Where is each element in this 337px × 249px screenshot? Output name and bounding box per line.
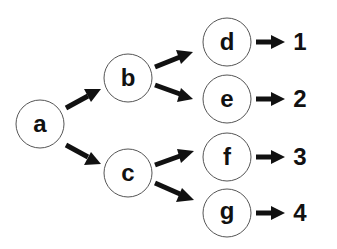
output-value-2: 2 <box>293 85 306 112</box>
output-arrow-f <box>256 150 285 164</box>
node-label: a <box>33 110 47 137</box>
edge-c-f <box>155 149 194 165</box>
node-f: f <box>203 133 251 181</box>
node-d: d <box>203 18 251 66</box>
output-value-3: 3 <box>293 143 306 170</box>
node-c: c <box>104 149 152 197</box>
node-e: e <box>203 75 251 123</box>
node-label: d <box>220 28 235 55</box>
output-value-1: 1 <box>293 28 306 55</box>
output-arrow-e <box>256 92 285 106</box>
node-a: a <box>16 100 64 148</box>
node-b: b <box>104 54 152 102</box>
edge-a-b <box>66 89 101 108</box>
output-value-4: 4 <box>293 199 307 226</box>
node-g: g <box>203 189 251 237</box>
edge-a-c <box>66 145 101 165</box>
node-label: b <box>121 64 136 91</box>
node-label: f <box>223 143 232 170</box>
node-label: e <box>220 85 233 112</box>
output-arrow-d <box>256 35 285 49</box>
node-label: g <box>220 197 235 224</box>
tree-diagram: a b c d e f g 1 2 3 4 <box>0 0 337 249</box>
edge-c-g <box>155 183 194 202</box>
node-label: c <box>121 159 134 186</box>
edge-b-d <box>155 50 193 67</box>
edge-b-e <box>155 85 193 102</box>
output-arrow-g <box>256 206 285 220</box>
